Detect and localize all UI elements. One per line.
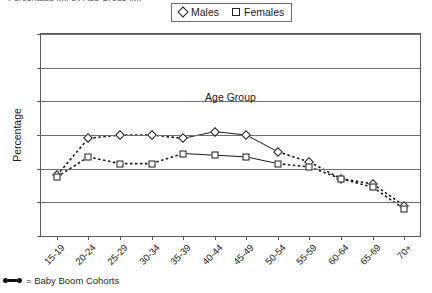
x-axis-tick-label: 40-44 xyxy=(187,242,224,279)
legend-entry-males: Males xyxy=(179,6,219,18)
y-axis-tick-mark xyxy=(37,135,41,136)
x-axis-tick-mark xyxy=(309,236,310,240)
x-axis-tick-label: 20-24 xyxy=(61,242,98,279)
series-segment xyxy=(57,138,89,175)
x-axis-tick-label: 65-69 xyxy=(345,242,382,279)
data-point-marker xyxy=(369,184,376,191)
series-segment xyxy=(152,154,184,164)
data-point-marker xyxy=(401,206,408,213)
x-axis-tick-mark xyxy=(183,236,184,240)
chart-legend: Males Females xyxy=(171,3,292,22)
legend-label-females: Females xyxy=(244,6,284,18)
data-point-marker xyxy=(211,152,218,159)
y-axis-tick-mark xyxy=(37,34,41,35)
x-axis-tick-label: 50-54 xyxy=(250,242,287,279)
data-point-marker xyxy=(85,153,92,160)
series-segment xyxy=(246,157,278,164)
x-axis-tick-mark xyxy=(246,236,247,240)
x-axis-tick-label: 55-59 xyxy=(282,242,319,279)
x-axis-tick-label: 15-19 xyxy=(29,242,66,279)
data-point-marker xyxy=(306,163,313,170)
series-segment xyxy=(88,157,120,164)
data-point-marker xyxy=(243,153,250,160)
x-axis-tick-mark xyxy=(278,236,279,240)
series-segment xyxy=(183,154,215,156)
legend-label-males: Males xyxy=(191,6,219,18)
x-axis-tick-mark xyxy=(404,236,405,240)
x-axis-label: Age Group xyxy=(41,91,420,103)
diamond-outline-icon xyxy=(177,6,188,17)
y-axis-tick-mark xyxy=(37,169,41,170)
x-axis-tick-mark xyxy=(341,236,342,240)
y-axis-tick-mark xyxy=(37,202,41,203)
x-axis-tick-label: 45-49 xyxy=(219,242,256,279)
gridline xyxy=(41,169,420,170)
x-axis-tick-mark xyxy=(88,236,89,240)
y-axis-label: Percentage xyxy=(11,108,23,162)
x-axis-tick-label: 60-64 xyxy=(313,242,350,279)
x-axis-tick-mark xyxy=(120,236,121,240)
series-segment xyxy=(215,155,247,157)
series-segment xyxy=(246,135,278,152)
x-axis-tick-mark xyxy=(373,236,374,240)
square-outline-icon xyxy=(232,8,240,16)
gridline xyxy=(41,202,420,203)
gridline xyxy=(41,34,420,35)
x-axis-tick-label: 30-34 xyxy=(124,242,161,279)
legend-entry-females: Females xyxy=(232,6,284,18)
y-axis-tick-mark xyxy=(37,236,41,237)
gridline xyxy=(41,68,420,69)
data-point-marker xyxy=(180,150,187,157)
data-point-marker xyxy=(53,174,60,181)
x-axis-tick-label: 35-39 xyxy=(155,242,192,279)
baby-boom-line-icon xyxy=(3,278,22,283)
data-point-marker xyxy=(148,160,155,167)
x-axis-tick-mark xyxy=(57,236,58,240)
gridline xyxy=(41,135,420,136)
footnote: = Baby Boom Cohorts xyxy=(3,275,119,286)
data-point-marker xyxy=(274,160,281,167)
chart-title-clipped: Percentage ..... by Age Group ..... xyxy=(8,0,142,1)
series-segment xyxy=(278,164,310,167)
x-axis-tick-label: 25-29 xyxy=(92,242,129,279)
x-axis-tick-mark xyxy=(152,236,153,240)
x-axis-tick-mark xyxy=(215,236,216,240)
chart-container: Percentage ..... by Age Group ..... Male… xyxy=(0,0,432,293)
series-segment xyxy=(309,162,341,179)
x-axis-tick-label: 70+ xyxy=(377,242,414,279)
footnote-text: = Baby Boom Cohorts xyxy=(26,275,119,286)
plot-area: Percentage 010203040506015-1920-2425-293… xyxy=(40,33,421,237)
data-point-marker xyxy=(338,175,345,182)
y-axis-tick-mark xyxy=(37,68,41,69)
data-point-marker xyxy=(116,160,123,167)
